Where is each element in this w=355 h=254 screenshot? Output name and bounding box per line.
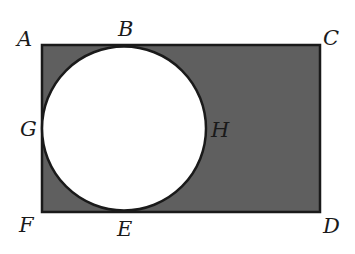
inscribed-circle [42,47,206,211]
geometry-diagram: A B C G H F E D [0,0,355,254]
label-c: C [323,26,339,50]
label-b: B [117,17,133,41]
label-d: D [322,214,340,238]
label-g: G [20,117,37,141]
label-a: A [15,27,32,51]
label-h: H [210,118,230,142]
label-e: E [116,217,132,241]
label-f: F [18,213,35,237]
